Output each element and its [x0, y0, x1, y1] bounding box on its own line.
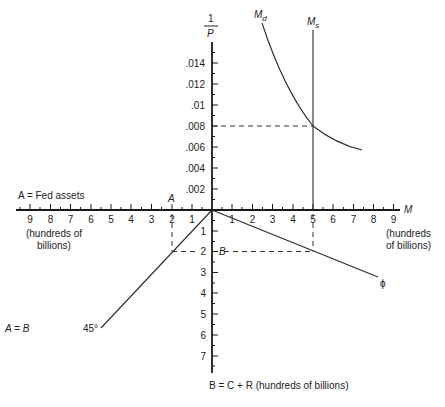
svg-text:.014: .014 [186, 58, 206, 69]
svg-text:4: 4 [290, 214, 296, 225]
left-x-tick-labels: 1 2 3 4 5 6 7 8 9 [27, 214, 195, 225]
svg-text:8: 8 [48, 214, 54, 225]
svg-text:3: 3 [200, 267, 206, 278]
svg-text:5: 5 [108, 214, 114, 225]
svg-text:7: 7 [351, 214, 357, 225]
svg-text:2: 2 [250, 214, 256, 225]
svg-text:.002: .002 [186, 184, 206, 195]
svg-text:1: 1 [189, 214, 195, 225]
svg-text:4: 4 [200, 288, 206, 299]
left-units-line2: billions) [37, 240, 71, 251]
svg-text:.006: .006 [186, 142, 206, 153]
svg-text:9: 9 [391, 214, 397, 225]
svg-text:.004: .004 [186, 163, 206, 174]
lower-y-tick-labels: 1 2 3 4 5 6 7 [200, 226, 206, 362]
svg-text:7: 7 [68, 214, 74, 225]
right-units-line2: of billions) [386, 240, 431, 251]
left-units-line1: (hundreds of [26, 228, 82, 239]
bottom-axis-label: B = C + R (hundreds of billions) [209, 380, 349, 391]
money-demand-curve [262, 23, 362, 150]
md-label: Md [254, 9, 267, 23]
svg-text:6: 6 [330, 214, 336, 225]
m-axis-label: M [404, 204, 413, 215]
svg-text:8: 8 [371, 214, 377, 225]
a-equals-b-label: A = B [4, 323, 30, 334]
svg-text:5: 5 [200, 309, 206, 320]
svg-text:6: 6 [88, 214, 94, 225]
y-axis-numerator: 1 [208, 13, 214, 24]
point-b-label: B [219, 246, 226, 257]
svg-text:1: 1 [200, 226, 206, 237]
svg-text:3: 3 [270, 214, 276, 225]
svg-text:.01: .01 [191, 100, 205, 111]
svg-text:2: 2 [200, 246, 206, 257]
svg-text:.012: .012 [186, 79, 206, 90]
y-axis-denominator: P [207, 28, 214, 39]
forty-five-degree-line [101, 210, 212, 328]
svg-text:7: 7 [200, 351, 206, 362]
upper-y-tick-labels: .002 .004 .006 .008 .01 .012 .014 [186, 58, 206, 195]
svg-text:3: 3 [149, 214, 155, 225]
ms-label: Ms [307, 16, 319, 30]
45-degree-label: 45° [83, 323, 98, 334]
point-a-label: A [167, 193, 175, 204]
svg-text:.008: .008 [186, 121, 206, 132]
right-units-line1: (hundreds [386, 228, 431, 239]
svg-text:9: 9 [27, 214, 33, 225]
svg-text:6: 6 [200, 330, 206, 341]
svg-text:4: 4 [128, 214, 134, 225]
phi-label: ϕ [380, 278, 386, 289]
fed-assets-axis-label: A = Fed assets [18, 190, 84, 201]
four-quadrant-money-diagram: 1 P .002 .004 .006 .008 .01 .012 .014 1 … [0, 0, 445, 407]
